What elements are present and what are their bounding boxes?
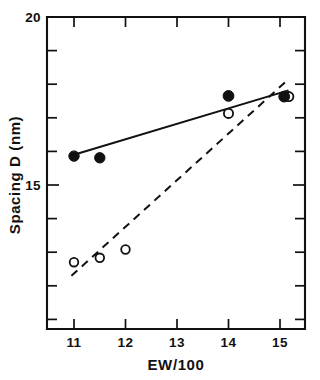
plot-frame (47, 17, 305, 329)
data-points-open (70, 92, 294, 267)
y-axis-ticks-left (47, 51, 59, 320)
data-point-filled (223, 91, 234, 102)
data-point-filled (95, 153, 105, 163)
x-axis-title: EW/100 (148, 356, 205, 373)
scatter-plot: 20 15 11 12 13 14 15 EW/100 Spacing D (n… (0, 0, 320, 380)
data-point-filled (69, 151, 79, 161)
data-point-filled (279, 91, 290, 102)
data-point-open (70, 258, 79, 267)
x-axis-ticks-top (74, 17, 280, 27)
data-point-open (96, 253, 105, 262)
x-tick-label-13: 13 (169, 335, 185, 350)
x-tick-label-15: 15 (272, 335, 288, 350)
x-tick-label-14: 14 (221, 335, 237, 350)
x-tick-label-12: 12 (118, 335, 134, 350)
figure-container: 20 15 11 12 13 14 15 EW/100 Spacing D (n… (0, 0, 320, 380)
x-tick-label-11: 11 (66, 335, 81, 350)
y-tick-label-20: 20 (25, 10, 41, 25)
x-axis-ticks-bottom (74, 319, 280, 329)
fit-line-dashed (71, 81, 286, 275)
y-tick-label-15: 15 (25, 178, 41, 193)
data-point-open (121, 245, 130, 254)
y-axis-ticks-right (293, 51, 305, 320)
fit-line-solid (71, 91, 287, 156)
y-axis-title: Spacing D (nm) (6, 116, 23, 234)
data-points-filled (69, 91, 290, 164)
data-point-open (224, 109, 233, 118)
